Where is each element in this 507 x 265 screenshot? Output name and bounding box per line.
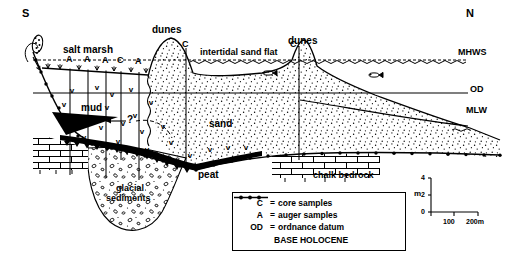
scale-vtick-4: 4 [421,174,425,181]
svg-text:v: v [149,98,154,107]
od-label: OD [470,85,484,94]
compass-label-south: S [22,8,29,19]
chalk-bedrock-label: chalk bedrock [313,171,374,180]
svg-text:v: v [95,83,100,92]
svg-text:v: v [208,145,213,154]
legend-key-od: OD [233,222,267,232]
glacial-sediments-label-2: sediments [106,194,151,203]
svg-text:v: v [169,138,174,147]
scale-vtick-2: 2 [421,191,425,198]
svg-text:v: v [140,127,145,136]
scale-htick-200: 200m [466,218,484,225]
cliff-vegetation [25,34,44,70]
borehole-label-bh3: A [102,56,109,65]
svg-text:v: v [244,143,249,152]
dunes-label-left: dunes [152,25,181,35]
mhws-wave [190,61,466,64]
compass-label-north: N [466,8,474,19]
scale-htick-100: 100 [443,218,455,225]
legend-value-core: core samples [278,198,332,208]
legend-row-auger: A = auger samples [233,209,405,221]
chalk-left-ticks [40,170,72,174]
borehole-label-bh2: A [84,55,91,64]
mlw-label: MLW [466,106,487,115]
svg-text:v: v [62,100,67,109]
query-label: ? [127,115,133,125]
intertidal-sand-flat-label: intertidal sand flat [200,48,278,57]
legend-key-a: A [233,210,267,220]
mhws-label: MHWS [458,48,487,57]
legend-value-base-holocene: BASE HOLOCENE [274,235,348,245]
borehole-label-bh5: A [135,57,142,66]
cross-section-figure: vv vv vv vv vv vv vv vv vv vv vv v [0,0,507,265]
svg-text:v: v [110,90,115,99]
borehole-label-bh1: A [66,55,73,64]
legend-row-od: OD = ordnance datum [233,221,405,233]
mud-label: mud [81,103,102,113]
svg-text:v: v [188,151,193,160]
sand-label: sand [209,119,232,129]
scale-vtick-0: 0 [421,208,425,215]
svg-text:v: v [133,111,138,120]
borehole-label-bh7: C [290,40,297,49]
sand-unit [147,38,500,167]
legend-row-base-holocene: BASE HOLOCENE [233,233,405,246]
peat-label: peat [198,170,219,180]
glacial-sediments-label-1: glacial [116,184,144,193]
borehole-label-bh6: C [182,40,189,49]
scale-vertical-unit: m [414,190,421,198]
legend-sep-od: = [267,222,278,232]
scale-bar-axes [428,178,478,216]
borehole-label-bh4: C [117,56,124,65]
legend-sep-auger: = [267,210,278,220]
fish-icon-right [369,72,383,77]
svg-text:v: v [99,123,104,132]
svg-text:v: v [226,143,231,152]
legend-value-od: ordnance datum [278,222,344,232]
legend-value-auger: auger samples [278,210,338,220]
legend-box: C = core samples A = auger samples OD = … [232,192,406,251]
